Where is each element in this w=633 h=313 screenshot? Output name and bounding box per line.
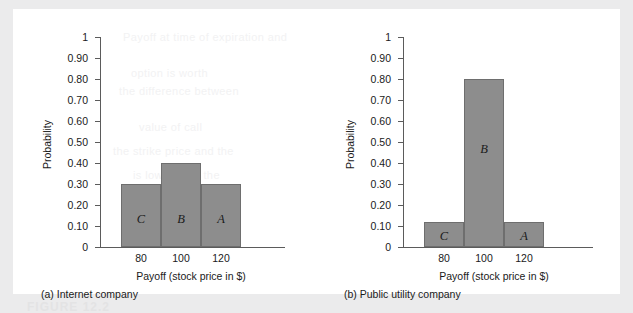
chart-panel-public-utility-company: Probability 1 0.90 0.80 0.70 0.60 0.50 0…: [316, 9, 620, 294]
x-tick-label: 120: [504, 252, 544, 264]
x-tick-label: 80: [121, 252, 161, 264]
y-tick-label: 0.50: [351, 136, 391, 148]
figure-root: Payoff at time of expiration and option …: [0, 0, 633, 313]
y-tick-label: 0.20: [48, 199, 88, 211]
x-axis-line: [100, 247, 285, 248]
chart-panel-internet-company: Probability 1 0.90 0.80 0.70 0.60 0.50 0…: [13, 9, 316, 294]
y-tick-label: 0.80: [351, 73, 391, 85]
y-tick-label: 0.60: [48, 115, 88, 127]
panel-caption-b: (b) Public utility company: [344, 288, 461, 300]
bar-b: [161, 163, 201, 247]
x-axis-line: [403, 247, 593, 248]
bar-letter-a: A: [201, 212, 241, 227]
x-tick-label: 100: [161, 252, 201, 264]
bar-letter-c: C: [424, 229, 464, 244]
y-tick-label: 1: [351, 31, 391, 43]
y-axis-line: [100, 37, 101, 248]
y-tick-label: 0.30: [351, 178, 391, 190]
y-tick-label: 0.40: [48, 157, 88, 169]
y-tick-label: 0.10: [48, 220, 88, 232]
bar-letter-c: C: [121, 212, 161, 227]
y-tick-label: 0: [48, 241, 88, 253]
y-tick-label: 0.90: [48, 52, 88, 64]
y-tick-label: 0.40: [351, 157, 391, 169]
bar-letter-b: B: [161, 212, 201, 227]
x-axis-label: Payoff (stock price in $): [101, 270, 281, 282]
y-tick-label: 0.10: [351, 220, 391, 232]
panel-caption-a: (a) Internet company: [41, 288, 138, 300]
y-tick-label: 0.80: [48, 73, 88, 85]
y-tick-label: 0: [351, 241, 391, 253]
y-tick-label: 0.30: [48, 178, 88, 190]
bar-letter-b: B: [464, 142, 504, 157]
figure-card: Payoff at time of expiration and option …: [13, 9, 620, 294]
y-tick-label: 0.70: [48, 94, 88, 106]
x-tick-label: 100: [464, 252, 504, 264]
y-tick-label: 0.90: [351, 52, 391, 64]
bar-letter-a: A: [504, 229, 544, 244]
plot-area: Probability 1 0.90 0.80 0.70 0.60 0.50 0…: [13, 9, 316, 294]
x-tick-label: 120: [201, 252, 241, 264]
y-axis-line: [403, 37, 404, 248]
y-tick-label: 0.20: [351, 199, 391, 211]
y-tick-label: 0.60: [351, 115, 391, 127]
figure-number-caption: FIGURE 12.2: [27, 300, 110, 313]
y-tick-label: 1: [48, 31, 88, 43]
x-tick-label: 80: [424, 252, 464, 264]
y-tick-label: 0.70: [351, 94, 391, 106]
x-axis-label: Payoff (stock price in $): [404, 270, 584, 282]
bar-b: [464, 79, 504, 247]
y-tick-label: 0.50: [48, 136, 88, 148]
plot-area: Probability 1 0.90 0.80 0.70 0.60 0.50 0…: [316, 9, 620, 294]
